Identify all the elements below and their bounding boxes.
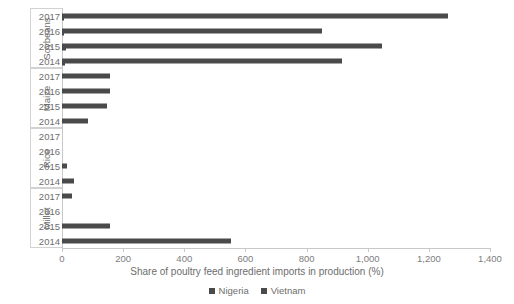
year-label: 2014 [32,55,60,66]
x-tick-mark [245,248,246,252]
x-tick-mark [429,248,430,252]
x-tick-label: 800 [299,253,315,264]
year-label: 2017 [32,70,60,81]
bar-vietnam [62,73,110,78]
year-label: 2014 [32,115,60,126]
x-tick-label: 600 [237,253,253,264]
legend-swatch-icon [261,288,267,294]
bar-vietnam [62,58,342,63]
x-axis-title: Share of poultry feed ingredient imports… [0,266,514,277]
x-tick-label: 200 [115,253,131,264]
legend-swatch-icon [209,288,215,294]
bar-vietnam [62,13,448,18]
year-label: 2015 [32,100,60,111]
year-label: 2015 [32,40,60,51]
x-tick-label: 0 [59,253,64,264]
category-group-label-text: Soybeans [41,17,52,59]
year-label: 2014 [32,175,60,186]
x-tick-mark [368,248,369,252]
x-tick-mark [490,248,491,252]
bar-vietnam [62,43,382,48]
bar-vietnam [62,223,110,228]
x-tick-mark [62,248,63,252]
legend-label: Vietnam [271,285,306,296]
x-tick-label: 400 [176,253,192,264]
bar-nigeria [62,31,64,36]
x-tick-mark [184,248,185,252]
legend-item-vietnam[interactable]: Vietnam [261,285,306,296]
bar-vietnam [62,193,72,198]
bar-vietnam [62,28,322,33]
x-tick-mark [123,248,124,252]
year-label: 2017 [32,130,60,141]
x-tick-label: 1,000 [356,253,380,264]
legend-item-nigeria[interactable]: Nigeria [209,285,249,296]
bar-nigeria [62,46,66,51]
chart-legend: NigeriaVietnam [0,285,514,296]
year-label: 2017 [32,190,60,201]
year-label: 2016 [32,25,60,36]
bar-vietnam [62,178,74,183]
x-tick-label: 1,400 [478,253,502,264]
legend-label: Nigeria [219,285,249,296]
plot-area: SoybeansMaizeRiceMillet 2017201620152014… [0,0,514,256]
bar-nigeria [62,16,64,21]
bar-vietnam [62,118,88,123]
x-axis-line [62,248,490,249]
year-label: 2015 [32,220,60,231]
bar-vietnam [62,238,231,243]
year-label: 2016 [32,85,60,96]
x-tick-label: 1,200 [417,253,441,264]
bar-chart: SoybeansMaizeRiceMillet 2017201620152014… [0,0,514,304]
year-label: 2016 [32,145,60,156]
bar-vietnam [62,88,110,93]
year-label: 2014 [32,235,60,246]
bar-vietnam [62,103,107,108]
year-label: 2015 [32,160,60,171]
bar-nigeria [62,61,65,66]
year-label: 2017 [32,10,60,21]
bar-vietnam [62,163,67,168]
x-tick-mark [307,248,308,252]
year-label: 2016 [32,205,60,216]
